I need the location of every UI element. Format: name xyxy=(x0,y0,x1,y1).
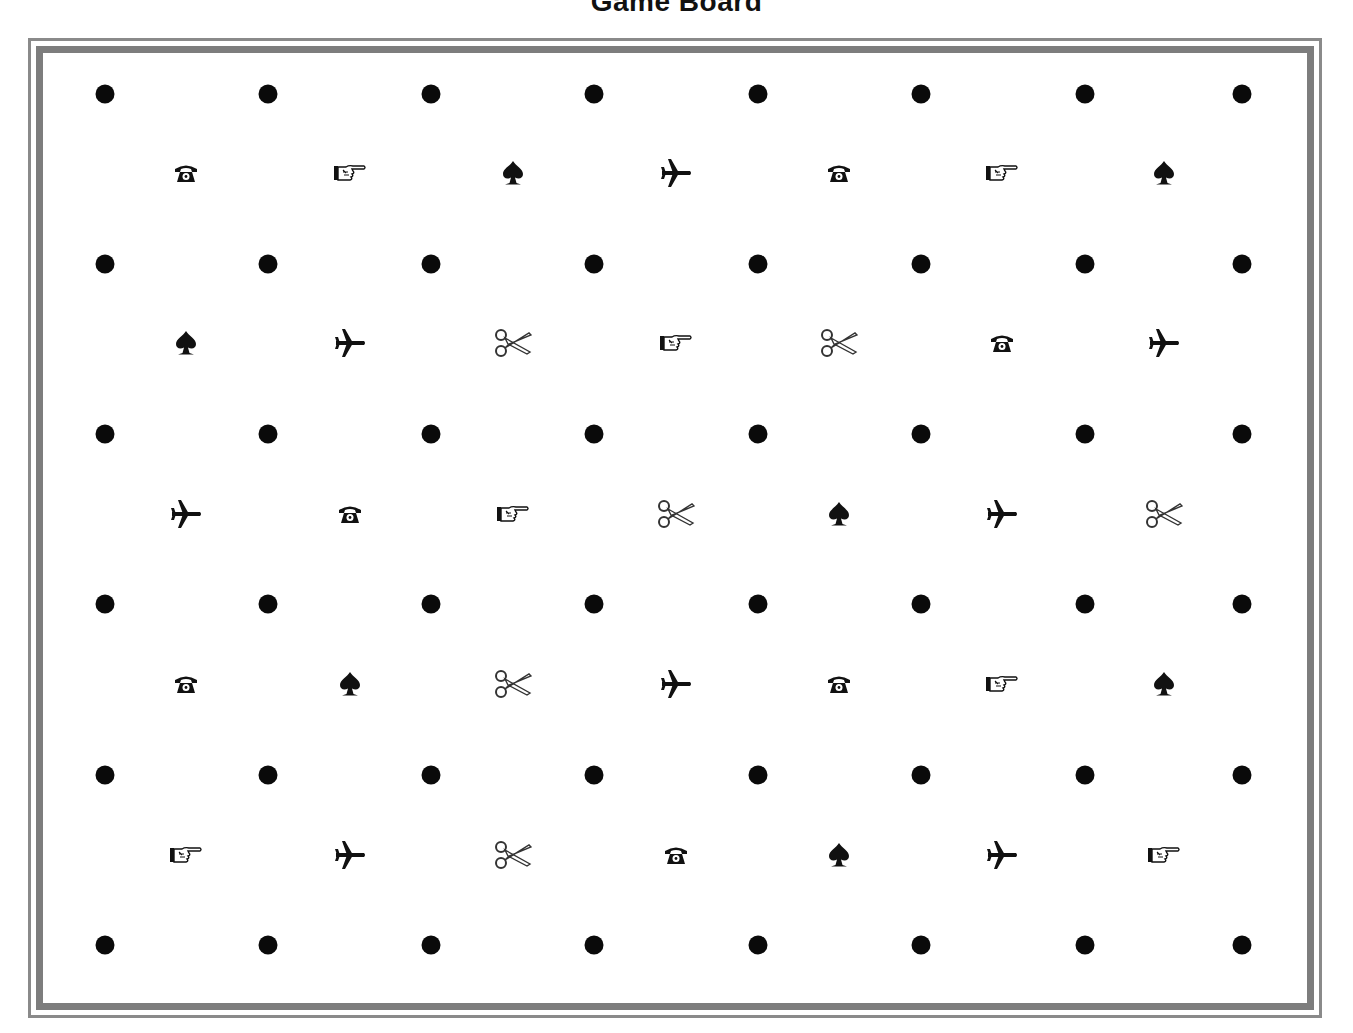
board-dot[interactable] xyxy=(1076,936,1095,955)
board-dot[interactable] xyxy=(259,595,278,614)
board-dot[interactable] xyxy=(749,85,768,104)
board-dot[interactable] xyxy=(422,595,441,614)
board-dot[interactable] xyxy=(585,255,604,274)
pointing-hand-icon[interactable] xyxy=(1144,835,1184,875)
board-dot[interactable] xyxy=(585,425,604,444)
page-title: Game Board xyxy=(0,0,1353,18)
spade-icon[interactable] xyxy=(493,153,533,193)
board-dot[interactable] xyxy=(1076,85,1095,104)
telephone-icon[interactable] xyxy=(819,153,859,193)
telephone-icon[interactable] xyxy=(330,494,370,534)
airplane-icon[interactable] xyxy=(1144,323,1184,363)
scissors-icon[interactable] xyxy=(1144,494,1184,534)
pointing-hand-icon[interactable] xyxy=(982,153,1022,193)
airplane-icon[interactable] xyxy=(166,494,206,534)
board-dot[interactable] xyxy=(259,425,278,444)
board-dot[interactable] xyxy=(259,766,278,785)
board-dot[interactable] xyxy=(1233,936,1252,955)
board-dot[interactable] xyxy=(912,425,931,444)
telephone-icon[interactable] xyxy=(166,153,206,193)
board-dot[interactable] xyxy=(749,766,768,785)
spade-icon[interactable] xyxy=(819,494,859,534)
board-dot[interactable] xyxy=(912,936,931,955)
board-dot[interactable] xyxy=(1233,766,1252,785)
pointing-hand-icon[interactable] xyxy=(166,835,206,875)
airplane-icon[interactable] xyxy=(330,323,370,363)
spade-icon[interactable] xyxy=(819,835,859,875)
airplane-icon[interactable] xyxy=(982,494,1022,534)
board-dot[interactable] xyxy=(96,936,115,955)
board-dot[interactable] xyxy=(912,766,931,785)
scissors-icon[interactable] xyxy=(493,323,533,363)
board-dot[interactable] xyxy=(1233,255,1252,274)
board-dot[interactable] xyxy=(585,85,604,104)
spade-icon[interactable] xyxy=(330,664,370,704)
board-dot[interactable] xyxy=(1076,255,1095,274)
board-dot[interactable] xyxy=(912,595,931,614)
board-dot[interactable] xyxy=(259,255,278,274)
airplane-icon[interactable] xyxy=(982,835,1022,875)
spade-icon[interactable] xyxy=(166,323,206,363)
pointing-hand-icon[interactable] xyxy=(656,323,696,363)
board-dot[interactable] xyxy=(422,766,441,785)
scissors-icon[interactable] xyxy=(493,835,533,875)
spade-icon[interactable] xyxy=(1144,153,1184,193)
board-dot[interactable] xyxy=(422,85,441,104)
spade-icon[interactable] xyxy=(1144,664,1184,704)
board-dot[interactable] xyxy=(749,936,768,955)
board-dot[interactable] xyxy=(422,936,441,955)
airplane-icon[interactable] xyxy=(656,664,696,704)
board-dot[interactable] xyxy=(749,255,768,274)
pointing-hand-icon[interactable] xyxy=(493,494,533,534)
board-dot[interactable] xyxy=(1233,595,1252,614)
airplane-icon[interactable] xyxy=(330,835,370,875)
board-dot[interactable] xyxy=(96,595,115,614)
scissors-icon[interactable] xyxy=(493,664,533,704)
board-dot[interactable] xyxy=(585,766,604,785)
pointing-hand-icon[interactable] xyxy=(982,664,1022,704)
telephone-icon[interactable] xyxy=(166,664,206,704)
board-dot[interactable] xyxy=(912,255,931,274)
board-dot[interactable] xyxy=(1076,425,1095,444)
telephone-icon[interactable] xyxy=(982,323,1022,363)
board-dot[interactable] xyxy=(259,85,278,104)
board-dot[interactable] xyxy=(912,85,931,104)
board-dot[interactable] xyxy=(259,936,278,955)
telephone-icon[interactable] xyxy=(656,835,696,875)
board-dot[interactable] xyxy=(96,425,115,444)
board-dot[interactable] xyxy=(422,425,441,444)
airplane-icon[interactable] xyxy=(656,153,696,193)
board-dot[interactable] xyxy=(749,595,768,614)
board-dot[interactable] xyxy=(1076,766,1095,785)
board-dot[interactable] xyxy=(749,425,768,444)
pointing-hand-icon[interactable] xyxy=(330,153,370,193)
board-dot[interactable] xyxy=(1233,85,1252,104)
board-dot[interactable] xyxy=(96,766,115,785)
board-dot[interactable] xyxy=(96,85,115,104)
scissors-icon[interactable] xyxy=(819,323,859,363)
board-dot[interactable] xyxy=(585,936,604,955)
board-dot[interactable] xyxy=(1233,425,1252,444)
board-dot[interactable] xyxy=(96,255,115,274)
telephone-icon[interactable] xyxy=(819,664,859,704)
board-dot[interactable] xyxy=(585,595,604,614)
board-dot[interactable] xyxy=(422,255,441,274)
board-dot[interactable] xyxy=(1076,595,1095,614)
scissors-icon[interactable] xyxy=(656,494,696,534)
